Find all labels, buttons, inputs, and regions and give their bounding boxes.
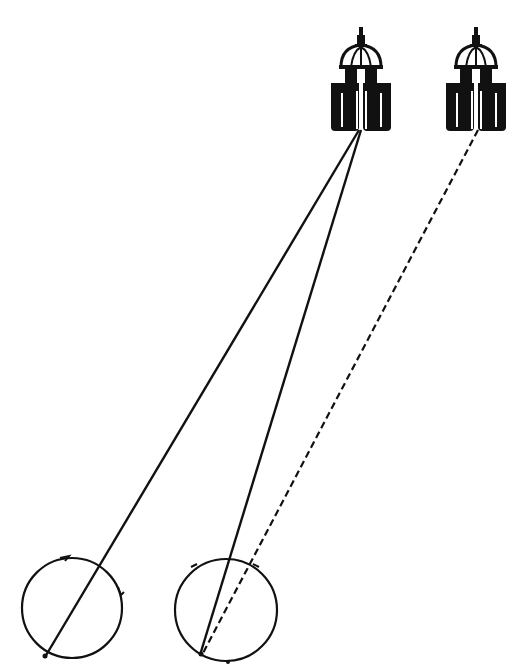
building-far-icon xyxy=(446,27,506,131)
ray-far-to-right-eye xyxy=(202,130,478,655)
building-near-icon xyxy=(331,27,391,131)
ray-near-to-right-eye xyxy=(200,130,361,655)
diagram-canvas xyxy=(0,0,529,672)
ray-near-to-left-eye xyxy=(45,130,359,657)
eye-left-icon xyxy=(22,556,124,659)
